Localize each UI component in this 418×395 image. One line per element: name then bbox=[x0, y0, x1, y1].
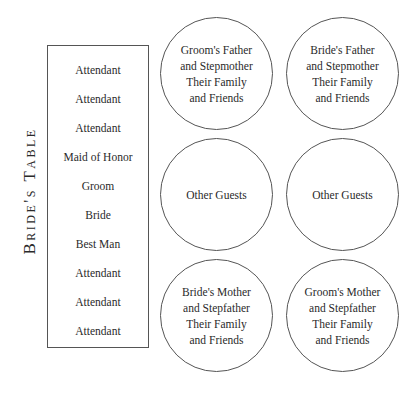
label-line: and Friends bbox=[180, 90, 253, 106]
label-line: and Friends bbox=[305, 332, 381, 348]
seat-attendant-2: Attendant bbox=[48, 92, 148, 106]
label-line: and Stepmother bbox=[306, 58, 379, 74]
seat-groom: Groom bbox=[48, 179, 148, 193]
guest-table-label: Other Guests bbox=[312, 187, 372, 203]
label-line: Their Family bbox=[306, 74, 379, 90]
label-line: Their Family bbox=[305, 316, 381, 332]
seat-best-man: Best Man bbox=[48, 237, 148, 251]
label-line: Bride's Father bbox=[306, 42, 379, 58]
guest-table-label: Bride's Father and Stepmother Their Fami… bbox=[306, 42, 379, 106]
seat-attendant-6: Attendant bbox=[48, 324, 148, 338]
seat-bride: Bride bbox=[48, 208, 148, 222]
guest-table-other-guests-1: Other Guests bbox=[160, 138, 273, 251]
guest-table-grooms-mother: Groom's Mother and Stepfather Their Fami… bbox=[286, 259, 399, 372]
label-line: Groom's Father bbox=[180, 42, 253, 58]
label-line: Bride's Mother bbox=[182, 284, 251, 300]
guest-table-grooms-father: Groom's Father and Stepmother Their Fami… bbox=[160, 17, 273, 130]
label-line: Their Family bbox=[180, 74, 253, 90]
guest-table-brides-father: Bride's Father and Stepmother Their Fami… bbox=[286, 17, 399, 130]
seat-attendant-4: Attendant bbox=[48, 266, 148, 280]
label-line: and Stepfather bbox=[305, 300, 381, 316]
label-line: and Friends bbox=[306, 90, 379, 106]
guest-table-brides-mother: Bride's Mother and Stepfather Their Fami… bbox=[160, 259, 273, 372]
seat-maid-of-honor: Maid of Honor bbox=[48, 150, 148, 164]
seat-attendant-5: Attendant bbox=[48, 295, 148, 309]
head-table: Attendant Attendant Attendant Maid of Ho… bbox=[47, 45, 149, 348]
guest-table-label: Groom's Mother and Stepfather Their Fami… bbox=[305, 284, 381, 348]
label-line: Other Guests bbox=[312, 187, 372, 203]
label-line: Groom's Mother bbox=[305, 284, 381, 300]
seat-attendant-3: Attendant bbox=[48, 121, 148, 135]
head-table-label: Bride's Table bbox=[20, 127, 40, 254]
guest-table-label: Bride's Mother and Stepfather Their Fami… bbox=[182, 284, 251, 348]
label-line: and Stepmother bbox=[180, 58, 253, 74]
label-line: Other Guests bbox=[186, 187, 246, 203]
guest-table-label: Groom's Father and Stepmother Their Fami… bbox=[180, 42, 253, 106]
guest-table-label: Other Guests bbox=[186, 187, 246, 203]
label-line: and Stepfather bbox=[182, 300, 251, 316]
label-line: and Friends bbox=[182, 332, 251, 348]
seat-attendant-1: Attendant bbox=[48, 63, 148, 77]
guest-table-other-guests-2: Other Guests bbox=[286, 138, 399, 251]
label-line: Their Family bbox=[182, 316, 251, 332]
